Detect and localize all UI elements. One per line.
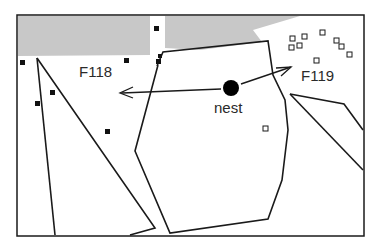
open-square-marker	[320, 30, 325, 35]
filled-square-marker	[105, 129, 110, 134]
label-f119: F119	[301, 67, 334, 84]
filled-square-marker	[50, 90, 55, 95]
filled-square-marker	[156, 59, 161, 64]
filled-square-marker	[124, 58, 129, 63]
open-square-marker	[290, 36, 295, 41]
open-square-marker	[289, 45, 294, 50]
filled-square-marker	[20, 60, 25, 65]
open-square-marker	[314, 58, 319, 63]
filled-square-marker	[158, 54, 162, 58]
filled-square-marker	[35, 101, 40, 106]
filled-square-marker	[154, 26, 159, 31]
nest-marker	[223, 80, 239, 96]
open-square-marker	[263, 126, 268, 131]
open-square-marker	[297, 43, 302, 48]
label-f118: F118	[79, 63, 112, 80]
open-square-marker	[347, 52, 352, 57]
shaded-area-left	[18, 16, 150, 56]
open-square-marker	[302, 34, 307, 39]
open-square-marker	[339, 44, 344, 49]
label-nest: nest	[214, 99, 243, 116]
open-square-marker	[334, 38, 339, 43]
territory-map: F118 F119 nest	[0, 0, 379, 248]
